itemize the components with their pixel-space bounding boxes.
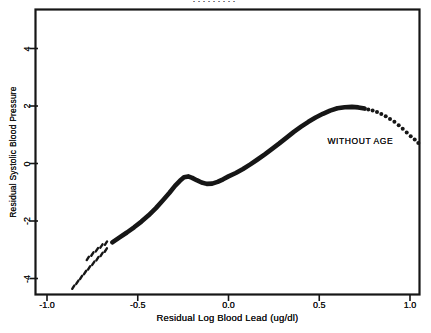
lowess-curve-leading-scatter-point (72, 285, 74, 288)
y-tick-label-0: 0 (22, 151, 32, 177)
lowess-curve-trailing-scatter-point (388, 117, 392, 121)
x-tick-label--1.0: -1.0 (31, 300, 63, 310)
figure-container: ········· Residual Systolic Blood Pressu… (0, 0, 431, 333)
plot-canvas (0, 0, 431, 333)
y-tick-label--2: -2 (22, 208, 32, 234)
lowess-curve-trailing-scatter-point (397, 123, 401, 127)
x-tick-label-1.0: 1.0 (394, 300, 426, 310)
lowess-curve-leading-scatter-point (92, 262, 94, 265)
lowess-curve-trailing-scatter-point (375, 110, 379, 114)
x-tick-label-0.0: 0.0 (213, 300, 245, 310)
lowess-curve-trailing-scatter-point (416, 141, 420, 145)
lowess-curve-leading-scatter-point (96, 257, 98, 260)
lowess-curve-leading-scatter-point (76, 281, 78, 284)
lowess-curve-leading-scatter-point (80, 276, 82, 279)
lowess-curve-leading-scatter-point (105, 248, 107, 251)
lowess-curve-leading-scatter-point (105, 241, 107, 244)
lowess-curve-trailing-scatter-point (392, 120, 396, 124)
annotation-without-age: WITHOUT AGE (327, 136, 393, 146)
lowess-curve-trailing-scatter-point (401, 127, 405, 131)
x-tick-label-0.5: 0.5 (303, 300, 335, 310)
lowess-curve-trailing-scatter-point (384, 114, 388, 118)
lowess-curve-trailing-scatter-point (366, 108, 370, 112)
lowess-curve-dense-band (112, 107, 364, 242)
lowess-curve-trailing-scatter-point (413, 138, 417, 142)
x-tick-label--0.5: -0.5 (122, 300, 154, 310)
y-axis-title: Residual Systolic Blood Pressure (8, 86, 18, 218)
x-axis-title: Residual Log Blood Lead (ug/dl) (35, 312, 420, 323)
lowess-curve-leading-scatter-point (101, 253, 103, 256)
y-tick-label-2: 2 (22, 93, 32, 119)
lowess-curve-trailing-scatter-point (379, 112, 383, 116)
lowess-curve-trailing-scatter-point (409, 134, 413, 138)
y-tick-label--4: -4 (22, 266, 32, 292)
lowess-curve-leading-scatter-point (87, 257, 89, 260)
y-tick-label-4: 4 (22, 36, 32, 62)
lowess-curve-leading-scatter-point (96, 248, 98, 251)
lowess-curve-trailing-scatter-point (405, 130, 409, 134)
lowess-curve-leading-scatter-point (88, 266, 90, 269)
lowess-curve-leading-scatter-point (91, 252, 93, 255)
lowess-curve-leading-scatter-point (100, 244, 102, 247)
lowess-curve-leading-scatter-point (84, 271, 86, 274)
lowess-curve-trailing-scatter-point (371, 109, 375, 113)
